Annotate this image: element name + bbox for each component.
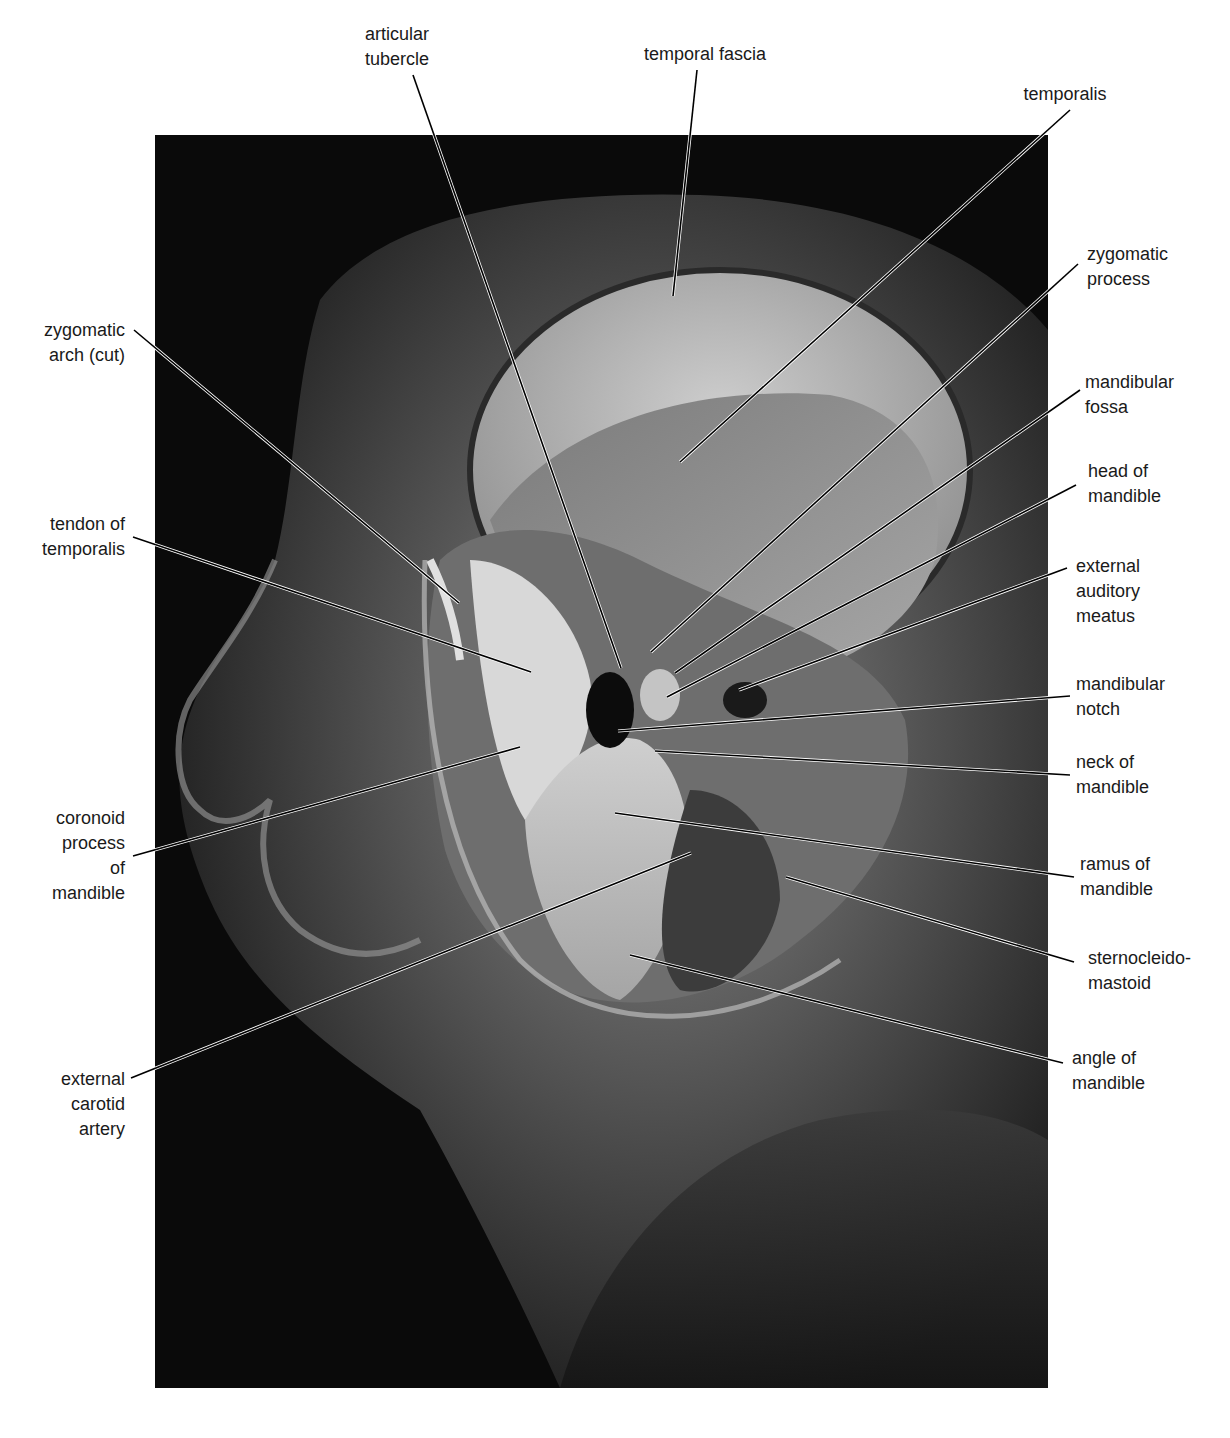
label-external-auditory-meatus: external auditory meatus: [1076, 554, 1140, 629]
label-angle-of-mandible: angle of mandible: [1072, 1046, 1145, 1096]
label-neck-of-mandible: neck of mandible: [1076, 750, 1149, 800]
anatomy-figure: [0, 0, 1230, 1438]
label-external-carotid-artery: external carotid artery: [30, 1067, 125, 1142]
label-temporalis: temporalis: [985, 82, 1145, 107]
mandibular-notch-shadow: [586, 672, 634, 748]
label-zygomatic-process: zygomatic process: [1087, 242, 1168, 292]
label-temporal-fascia: temporal fascia: [625, 42, 785, 67]
label-tendon-of-temporalis: tendon of temporalis: [30, 512, 125, 562]
label-coronoid-process-of-mandible: coronoid process of mandible: [30, 806, 125, 906]
label-ramus-of-mandible: ramus of mandible: [1080, 852, 1153, 902]
label-articular-tubercle: articular tubercle: [317, 22, 477, 72]
label-mandibular-notch: mandibular notch: [1076, 672, 1165, 722]
label-zygomatic-arch-cut: zygomatic arch (cut): [30, 318, 125, 368]
label-mandibular-fossa: mandibular fossa: [1085, 370, 1174, 420]
label-sternocleidomastoid: sternocleido- mastoid: [1088, 946, 1191, 996]
label-head-of-mandible: head of mandible: [1088, 459, 1161, 509]
dissection-photo: [155, 135, 1048, 1388]
